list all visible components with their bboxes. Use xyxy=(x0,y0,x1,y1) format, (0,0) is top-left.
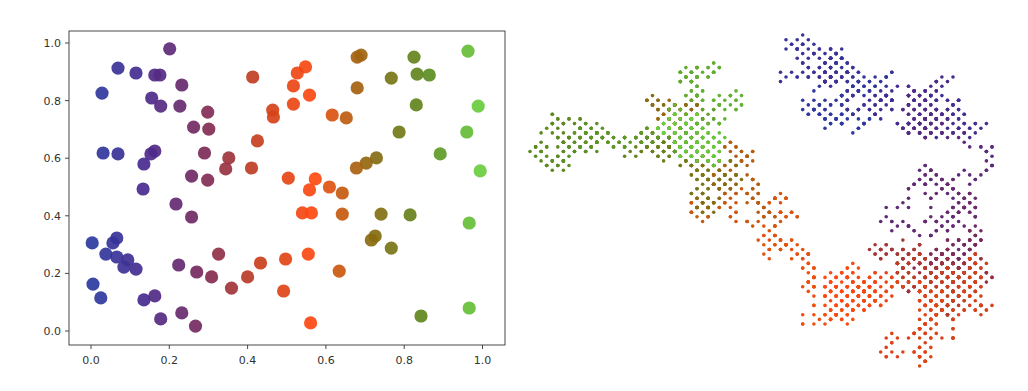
walk-point xyxy=(656,108,660,112)
walk-point xyxy=(912,182,916,186)
walk-point xyxy=(974,234,978,238)
walk-point xyxy=(962,262,966,266)
walk-point xyxy=(734,210,738,214)
walk-point xyxy=(884,336,888,340)
walk-point xyxy=(623,154,627,158)
walk-point xyxy=(734,220,738,224)
walk-point xyxy=(929,168,933,172)
walk-point xyxy=(795,215,799,219)
walk-point xyxy=(684,140,688,144)
walk-point xyxy=(762,206,766,210)
scatter-point xyxy=(385,72,398,85)
scatter-points xyxy=(86,42,487,333)
scatter-point xyxy=(86,278,99,291)
walk-point xyxy=(968,229,972,233)
scatter-point xyxy=(304,316,317,329)
scatter-point xyxy=(411,68,424,81)
walk-point xyxy=(923,341,927,345)
walk-point xyxy=(829,85,833,89)
scatter-point xyxy=(202,123,215,136)
walk-point xyxy=(612,136,616,140)
walk-point xyxy=(578,145,582,149)
walk-point xyxy=(807,252,811,256)
walk-point xyxy=(901,126,905,130)
walk-point xyxy=(690,173,694,177)
walk-point xyxy=(901,238,905,242)
walk-point xyxy=(706,215,710,219)
scatter-point xyxy=(336,186,349,199)
walk-point xyxy=(701,136,705,140)
walk-point xyxy=(662,150,666,154)
walk-point xyxy=(923,126,927,130)
walk-point xyxy=(745,220,749,224)
walk-point xyxy=(651,150,655,154)
walk-point xyxy=(979,294,983,298)
walk-point xyxy=(873,94,877,98)
walk-point xyxy=(912,117,916,121)
walk-point xyxy=(662,131,666,135)
walk-point xyxy=(745,192,749,196)
walk-point xyxy=(851,271,855,275)
walk-point xyxy=(957,276,961,280)
walk-point xyxy=(695,66,699,70)
walk-point xyxy=(873,75,877,79)
walk-point xyxy=(779,220,783,224)
walk-point xyxy=(807,47,811,51)
walk-point xyxy=(712,71,716,75)
walk-point xyxy=(712,201,716,205)
walk-point xyxy=(790,71,794,75)
walk-point xyxy=(807,113,811,117)
walk-point xyxy=(968,126,972,130)
walk-point xyxy=(929,103,933,107)
walk-point xyxy=(801,61,805,65)
walk-point xyxy=(617,140,621,144)
walk-point xyxy=(940,271,944,275)
walk-point xyxy=(706,140,710,144)
walk-point xyxy=(784,47,788,51)
walk-point xyxy=(745,173,749,177)
walk-point xyxy=(556,164,560,168)
walk-point xyxy=(907,280,911,284)
walk-point xyxy=(940,113,944,117)
walk-point xyxy=(912,276,916,280)
walk-point xyxy=(890,229,894,233)
walk-point xyxy=(851,113,855,117)
walk-point xyxy=(918,178,922,182)
walk-point xyxy=(723,136,727,140)
walk-point xyxy=(723,145,727,149)
walk-point xyxy=(684,66,688,70)
walk-point xyxy=(751,178,755,182)
walk-point xyxy=(884,215,888,219)
walk-point xyxy=(957,136,961,140)
walk-point xyxy=(940,336,944,340)
walk-point xyxy=(662,159,666,163)
walk-point xyxy=(979,266,983,270)
walk-point xyxy=(974,196,978,200)
walk-point xyxy=(935,332,939,336)
walk-point xyxy=(923,304,927,308)
walk-point xyxy=(807,262,811,266)
walk-point xyxy=(556,126,560,130)
walk-point xyxy=(712,154,716,158)
walk-point xyxy=(595,131,599,135)
walk-point xyxy=(656,117,660,121)
walk-point xyxy=(935,89,939,93)
walk-point xyxy=(723,99,727,103)
walk-point xyxy=(851,262,855,266)
walk-point xyxy=(907,262,911,266)
scatter-point xyxy=(385,242,398,255)
walk-point xyxy=(946,313,950,317)
walk-point xyxy=(684,94,688,98)
walk-point xyxy=(662,103,666,107)
walk-point xyxy=(690,126,694,130)
walk-point xyxy=(946,257,950,261)
walk-point xyxy=(979,313,983,317)
scatter-point xyxy=(129,263,142,276)
walk-point xyxy=(840,308,844,312)
walk-point xyxy=(589,136,593,140)
walk-point xyxy=(640,150,644,154)
walk-point xyxy=(957,238,961,242)
scatter-point xyxy=(407,51,420,64)
walk-point xyxy=(907,94,911,98)
walk-point xyxy=(912,99,916,103)
